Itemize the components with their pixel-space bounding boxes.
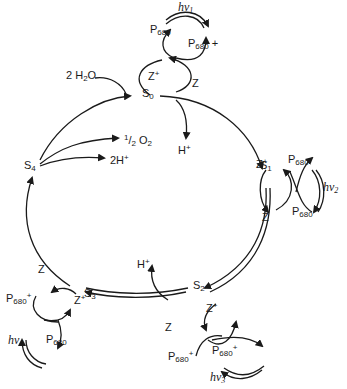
light-2: hν2 xyxy=(323,182,338,196)
light-4: hν4 xyxy=(8,335,23,349)
z-s2: Z xyxy=(165,322,172,333)
state-s2: S2 xyxy=(193,280,205,294)
p680-s3-left: P680+ xyxy=(6,290,31,307)
p680-s3-bottom: P680 xyxy=(46,334,67,348)
zplus-s2: Z+ xyxy=(206,300,217,314)
p680-s2-right: P680+ xyxy=(212,342,237,359)
oxygen-output: 1/2 O2 xyxy=(124,132,152,149)
light-1: hν1 xyxy=(178,2,193,16)
p680-s0-right: P680 + xyxy=(188,38,218,52)
arrow-s0-s1 xyxy=(160,96,262,168)
proton-s2: H+ xyxy=(137,256,150,270)
zplus-s0: Z+ xyxy=(148,68,159,82)
p680-s1-bottom: P680 xyxy=(292,206,313,220)
state-s3: S3 xyxy=(84,288,96,302)
protons-s4: 2H+ xyxy=(110,152,129,166)
z-s0: Z xyxy=(192,78,199,89)
state-s0: S0 xyxy=(142,88,154,102)
z-s1: Z xyxy=(262,212,269,223)
cycle-arrows xyxy=(0,0,347,389)
p680-s0-left: P680 xyxy=(150,24,171,38)
p680-s2-left: P680+ xyxy=(168,348,193,365)
light-3: hν3 xyxy=(210,372,225,386)
zplus-s1: Z+ xyxy=(256,156,267,170)
proton-s0: H+ xyxy=(178,142,191,156)
water-input: 2 H2O xyxy=(66,70,96,84)
zplus-s3: Z+ xyxy=(74,292,85,306)
state-s4: S4 xyxy=(24,160,36,174)
z-s3: Z xyxy=(38,264,45,275)
p680-s1-top: P680 xyxy=(288,154,309,168)
